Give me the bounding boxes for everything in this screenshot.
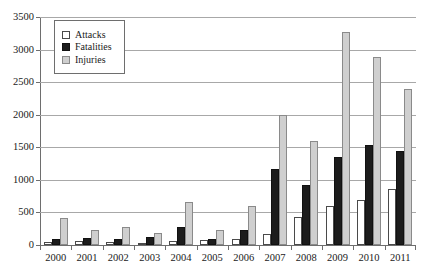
bar-attacks-2011 — [388, 189, 396, 245]
x-tick-label-2009: 2009 — [322, 252, 353, 264]
y-tick-label-500: 500 — [0, 207, 34, 218]
bar-fatalities-2001 — [83, 238, 91, 245]
bar-attacks-2008 — [294, 217, 302, 245]
bar-injuries-2011 — [404, 89, 412, 245]
x-tick-label-2002: 2002 — [103, 252, 134, 264]
bar-fatalities-2009 — [334, 157, 342, 245]
x-tick-2003 — [134, 245, 165, 251]
x-tick-2008 — [291, 245, 322, 251]
bar-injuries-2000 — [60, 218, 68, 245]
legend-label-fatalities: Fatalities — [75, 42, 112, 52]
legend-item-attacks: Attacks — [62, 30, 118, 40]
bar-group-2003 — [134, 17, 165, 245]
y-tick-label-1500: 1500 — [0, 142, 34, 153]
x-tick-2011 — [385, 245, 416, 251]
x-tick-2005 — [197, 245, 228, 251]
bar-injuries-2008 — [310, 141, 318, 245]
x-tick-2000 — [40, 245, 71, 251]
bar-fatalities-2006 — [240, 230, 248, 245]
y-tick-label-0: 0 — [0, 240, 34, 251]
x-tick-2001 — [71, 245, 102, 251]
bar-group-2008 — [291, 17, 322, 245]
y-tick-label-1000: 1000 — [0, 175, 34, 186]
y-tick-label-3500: 3500 — [0, 12, 34, 23]
x-tick-2002 — [103, 245, 134, 251]
legend-item-fatalities: Fatalities — [62, 42, 118, 52]
bar-fatalities-2003 — [146, 237, 154, 245]
x-tick-label-2010: 2010 — [353, 252, 384, 264]
bar-fatalities-2008 — [302, 185, 310, 245]
x-tick-label-2005: 2005 — [197, 252, 228, 264]
x-tick-label-2007: 2007 — [259, 252, 290, 264]
bar-attacks-2009 — [326, 206, 334, 245]
bar-injuries-2002 — [122, 227, 130, 245]
chart-legend: Attacks Fatalities Injuries — [54, 20, 125, 74]
bar-injuries-2007 — [279, 115, 287, 245]
bar-fatalities-2010 — [365, 145, 373, 245]
legend-item-injuries: Injuries — [62, 55, 118, 65]
x-tick-label-2011: 2011 — [385, 252, 416, 264]
bar-group-2009 — [322, 17, 353, 245]
y-tick-label-2500: 2500 — [0, 77, 34, 88]
bar-chart: 0500100015002000250030003500 20002001200… — [0, 0, 423, 274]
x-tick-label-2000: 2000 — [40, 252, 71, 264]
legend-label-injuries: Injuries — [75, 55, 106, 65]
bar-injuries-2004 — [185, 202, 193, 245]
bar-group-2004 — [165, 17, 196, 245]
x-tick-2004 — [165, 245, 196, 251]
x-tick-2010 — [353, 245, 384, 251]
bar-injuries-2006 — [248, 206, 256, 245]
x-tick-label-2001: 2001 — [71, 252, 102, 264]
bar-attacks-2007 — [263, 234, 271, 245]
x-axis-labels: 2000200120022003200420052006200720082009… — [40, 252, 416, 264]
x-tick-label-2008: 2008 — [291, 252, 322, 264]
legend-label-attacks: Attacks — [75, 30, 106, 40]
x-tick-2006 — [228, 245, 259, 251]
fatalities-swatch-icon — [62, 43, 70, 51]
bar-fatalities-2004 — [177, 227, 185, 245]
bar-injuries-2005 — [216, 230, 224, 245]
y-tick-label-3000: 3000 — [0, 45, 34, 56]
injuries-swatch-icon — [62, 56, 70, 64]
x-axis-ticks — [40, 245, 416, 251]
bar-attacks-2010 — [357, 200, 365, 245]
x-tick-label-2006: 2006 — [228, 252, 259, 264]
bar-injuries-2010 — [373, 57, 381, 245]
attacks-swatch-icon — [62, 31, 70, 39]
bar-group-2005 — [197, 17, 228, 245]
bar-injuries-2001 — [91, 230, 99, 245]
bar-fatalities-2011 — [396, 151, 404, 245]
bar-group-2006 — [228, 17, 259, 245]
bar-injuries-2003 — [154, 233, 162, 245]
bar-injuries-2009 — [342, 32, 350, 245]
x-tick-label-2004: 2004 — [165, 252, 196, 264]
y-tick-label-2000: 2000 — [0, 110, 34, 121]
x-tick-2009 — [322, 245, 353, 251]
x-tick-label-2003: 2003 — [134, 252, 165, 264]
bar-group-2007 — [259, 17, 290, 245]
x-tick-2007 — [259, 245, 290, 251]
bar-group-2010 — [353, 17, 384, 245]
bar-group-2011 — [385, 17, 416, 245]
bar-fatalities-2007 — [271, 169, 279, 245]
